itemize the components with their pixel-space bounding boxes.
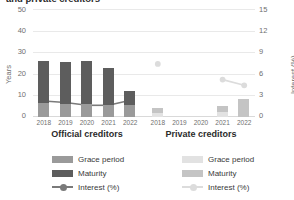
group-label-private: Private creditors	[147, 129, 255, 140]
y-tick-left-4: 10	[2, 91, 26, 99]
bar-stack	[124, 91, 135, 117]
bar-official-2020[interactable]	[76, 9, 98, 117]
x-tick-2022: 2022	[119, 119, 141, 127]
legend-item-interest-private[interactable]: Interest (%)	[182, 180, 294, 194]
x-tick-2021: 2021	[98, 119, 120, 127]
y-tick-right-0: 15	[259, 6, 283, 14]
y-axis-label-right: Interest (%)	[289, 55, 294, 94]
bar-segment-maturity	[81, 61, 92, 103]
legend-private: Grace period Maturity Interest (%)	[182, 152, 294, 194]
x-tick-2020: 2020	[76, 119, 98, 127]
legend-line-interest-icon	[52, 183, 73, 191]
bar-stack	[81, 61, 92, 117]
legend-label-maturity: Maturity	[78, 169, 106, 178]
bar-official-2021[interactable]	[98, 9, 120, 117]
bar-private-2022[interactable]	[233, 9, 255, 117]
bar-segment-maturity	[38, 61, 49, 103]
bar-segment-maturity	[124, 91, 135, 105]
legend-item-grace-official[interactable]: Grace period	[52, 152, 177, 166]
plot-area	[33, 9, 255, 117]
group-label-official: Official creditors	[33, 129, 141, 140]
x-tick-2022: 2022	[233, 119, 255, 127]
bar-stack	[103, 68, 114, 117]
legend-label-grace: Grace period	[208, 155, 254, 164]
bar-segment-maturity	[60, 62, 71, 104]
legend-swatch-grace-icon	[182, 156, 203, 163]
bar-stack	[217, 106, 228, 117]
chart-figure: and private creditors 50 40 30 20 10 0 1…	[0, 0, 294, 200]
x-tick-2021: 2021	[212, 119, 234, 127]
y-tick-right-1: 12	[259, 27, 283, 35]
x-axis-private: 20182019202020212022	[147, 119, 255, 128]
y-tick-left-2: 30	[2, 48, 26, 56]
bar-segment-grace	[103, 105, 114, 117]
legend-label-maturity: Maturity	[208, 169, 236, 178]
legend-swatch-maturity-icon	[52, 170, 73, 177]
bar-group-official	[33, 9, 141, 117]
x-axis-official: 20182019202020212022	[33, 119, 141, 128]
legend-label-interest: Interest (%)	[78, 183, 119, 192]
bar-stack	[38, 61, 49, 117]
bar-segment-grace	[152, 113, 163, 117]
legend-item-grace-private[interactable]: Grace period	[182, 152, 294, 166]
bar-group-private	[147, 9, 255, 117]
bar-segment-grace	[60, 104, 71, 117]
bar-private-2021[interactable]	[212, 9, 234, 117]
legend-item-maturity-official[interactable]: Maturity	[52, 166, 177, 180]
chart-title: and private creditors	[6, 0, 286, 4]
y-tick-right-2: 9	[259, 48, 283, 56]
x-tick-2020: 2020	[190, 119, 212, 127]
bar-private-2018[interactable]	[147, 9, 169, 117]
x-tick-2019: 2019	[169, 119, 191, 127]
bar-official-2019[interactable]	[55, 9, 77, 117]
bar-segment-grace	[217, 112, 228, 117]
y-tick-left-1: 40	[2, 27, 26, 35]
bar-official-2018[interactable]	[33, 9, 55, 117]
bar-stack	[60, 62, 71, 117]
legend-line-interest-icon	[182, 183, 203, 191]
x-tick-2018: 2018	[147, 119, 169, 127]
bar-private-2020[interactable]	[190, 9, 212, 117]
bar-segment-maturity	[103, 68, 114, 105]
legend-official: Grace period Maturity Interest (%)	[52, 152, 177, 194]
bar-segment-grace	[38, 103, 49, 117]
legend-label-interest: Interest (%)	[208, 183, 249, 192]
bar-segment-grace	[81, 104, 92, 117]
x-tick-2018: 2018	[33, 119, 55, 127]
x-tick-2019: 2019	[55, 119, 77, 127]
legend-swatch-maturity-icon	[182, 170, 203, 177]
bar-stack	[152, 108, 163, 117]
y-tick-left-5: 0	[2, 112, 26, 120]
bar-stack	[238, 99, 249, 117]
bar-official-2022[interactable]	[119, 9, 141, 117]
y-tick-left-0: 50	[2, 6, 26, 14]
y-tick-right-4: 3	[259, 91, 283, 99]
legend-item-interest-official[interactable]: Interest (%)	[52, 180, 177, 194]
bar-private-2019[interactable]	[169, 9, 191, 117]
legend-item-maturity-private[interactable]: Maturity	[182, 166, 294, 180]
bar-segment-maturity	[238, 99, 249, 117]
y-tick-right-5: 0	[259, 112, 283, 120]
bar-segment-grace	[124, 105, 135, 117]
y-axis-label-left: Years	[4, 65, 13, 84]
y-tick-right-3: 6	[259, 70, 283, 78]
legend-swatch-grace-icon	[52, 156, 73, 163]
legend-label-grace: Grace period	[78, 155, 124, 164]
